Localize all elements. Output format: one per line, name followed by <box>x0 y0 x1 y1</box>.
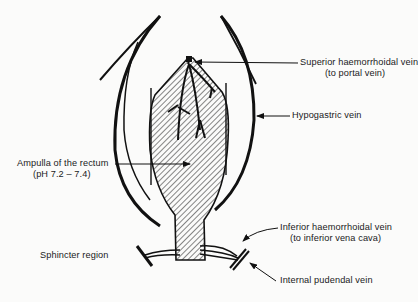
superior-vein-origin <box>186 56 192 62</box>
pudendal-vein-leader <box>250 263 276 281</box>
inferior-haemorrhoidal-vein-label: Inferior haemorrhoidal vein (to inferior… <box>280 222 392 244</box>
internal-pudendal-vein-label: Internal pudendal vein <box>280 275 373 286</box>
superior-vein-leader <box>195 62 298 63</box>
left-crossing-line <box>100 16 160 80</box>
sphincter-region-label: Sphincter region <box>40 250 109 261</box>
ampulla-label: Ampulla of the rectum (pH 7.2 – 7.4) <box>17 158 108 180</box>
inferior-vein-leader <box>243 228 278 241</box>
left-sphincter-bar <box>137 246 152 266</box>
right-crossing-line <box>221 16 256 84</box>
superior-haemorrhoidal-vein-label: Superior haemorrhoidal vein (to portal v… <box>300 57 418 79</box>
rectum-ampulla <box>150 58 229 260</box>
hypogastric-vein-label: Hypogastric vein <box>292 110 362 121</box>
